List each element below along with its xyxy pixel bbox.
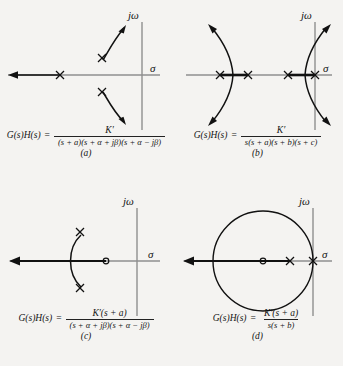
locus-branch-lower-a	[103, 92, 124, 122]
axis-label-imaginary-a: jω	[126, 9, 139, 21]
panel-a: jω σ G(s)H(s) = K′ (s + a)(s + α + jβ)(s…	[0, 0, 172, 183]
axis-label-imaginary-d: jω	[297, 195, 310, 207]
axis-label-real-a: σ	[150, 62, 156, 74]
formula-numerator-d: K′(s + a)	[260, 309, 302, 319]
panel-caption-b: (b)	[172, 149, 343, 159]
formula-denominator-c: (s + α + jβ)(s + α − jβ)	[66, 319, 154, 330]
formula-denominator-a: (s + a)(s + α + jβ)(s + α − jβ)	[54, 136, 165, 147]
formula-lhs-c: G(s)H(s)	[18, 314, 52, 324]
formula-equals-d: =	[250, 314, 257, 324]
locus-arrowhead-left-d	[183, 257, 194, 266]
formula-denominator-b: s(s + a)(s + b)(s + c)	[241, 136, 321, 147]
pole-complex-upper-c	[76, 228, 84, 236]
formula-fraction-c: K′(s + a) (s + α + jβ)(s + α − jβ)	[66, 309, 154, 330]
panel-caption-d: (d)	[172, 332, 343, 342]
locus-arrowhead-left-c	[9, 257, 20, 266]
formula-equals-c: =	[55, 314, 62, 324]
formula-equals-a: =	[44, 131, 51, 141]
formula-numerator-c: K′(s + a)	[88, 309, 130, 319]
panel-d: jω σ G(s)H(s) = K′(s + a) s(s + b) (d)	[172, 183, 343, 366]
axis-label-real-b: σ	[323, 62, 329, 74]
formula-denominator-d: s(s + b)	[264, 319, 299, 330]
locus-arrowhead-left-a	[8, 71, 18, 79]
formula-fraction-d: K′(s + a) s(s + b)	[260, 309, 302, 330]
axis-label-imaginary-c: jω	[121, 195, 134, 207]
formula-lhs-a: G(s)H(s)	[7, 131, 41, 141]
formula-numerator-b: K′	[273, 126, 289, 136]
panel-b: jω σ G(s)H(s) = K′ s(s + a)(s + b)(s + c…	[172, 0, 343, 183]
formula-lhs-d: G(s)H(s)	[213, 314, 247, 324]
formula-lhs-b: G(s)H(s)	[194, 131, 228, 141]
formula-fraction-b: K′ s(s + a)(s + b)(s + c)	[241, 126, 321, 147]
locus-arrowhead-upper-a	[119, 25, 127, 34]
axis-label-real-d: σ	[322, 248, 328, 260]
pole-complex-lower-a	[98, 88, 106, 96]
panel-caption-c: (c)	[0, 332, 172, 342]
formula-numerator-a: K′	[101, 126, 117, 136]
figure-grid: jω σ G(s)H(s) = K′ (s + a)(s + α + jβ)(s…	[0, 0, 343, 366]
axis-label-real-c: σ	[148, 248, 154, 260]
axis-label-imaginary-b: jω	[299, 9, 312, 21]
panel-caption-a: (a)	[0, 149, 172, 159]
formula-fraction-a: K′ (s + a)(s + α + jβ)(s + α − jβ)	[54, 126, 165, 147]
formula-d: G(s)H(s) = K′(s + a) s(s + b) (d)	[172, 309, 343, 342]
locus-branch-upper-a	[103, 28, 124, 60]
panel-c: jω σ G(s)H(s) = K′(s + a) (s + α + jβ)(s…	[0, 183, 172, 366]
formula-a: G(s)H(s) = K′ (s + a)(s + α + jβ)(s + α …	[0, 126, 172, 159]
formula-c: G(s)H(s) = K′(s + a) (s + α + jβ)(s + α …	[0, 309, 172, 342]
formula-b: G(s)H(s) = K′ s(s + a)(s + b)(s + c) (b)	[172, 126, 343, 159]
formula-equals-b: =	[230, 131, 237, 141]
